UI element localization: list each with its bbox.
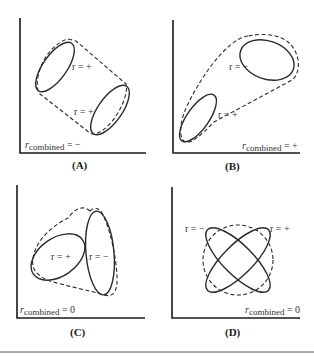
panel-d-combined-envelope <box>203 225 273 295</box>
panel-a: r = + r = + rcombined = − (A) <box>20 18 146 172</box>
panel-d-ellipse-2 <box>197 219 279 301</box>
panel-a-combined-label: rcombined = − <box>25 139 81 152</box>
panel-d-combined-label: rcombined = 0 <box>245 304 300 317</box>
panel-b-caption: (B) <box>225 160 240 173</box>
panel-b-combined-envelope <box>181 34 299 142</box>
panel-d-caption: (D) <box>225 326 241 339</box>
panel-a-r-label-2: r = + <box>74 106 94 117</box>
panel-b-ellipse-2 <box>173 89 223 147</box>
panel-c-r-label-2: r = − <box>89 251 109 262</box>
panel-d-r-label-2: r = + <box>270 223 290 234</box>
panel-b: r = − r = + rcombined = + (B) <box>173 20 300 173</box>
panel-b-combined-label: rcombined = + <box>242 140 298 153</box>
panel-d-r-label-1: r = − <box>185 223 205 234</box>
panel-d-axes <box>172 187 300 318</box>
panel-c: r = + r = − rcombined = 0 (C) <box>17 185 145 339</box>
panel-c-r-label-1: r = + <box>51 251 71 262</box>
panel-b-r-label-1: r = − <box>229 61 249 72</box>
panel-a-axes <box>20 18 146 153</box>
panel-d: r = − r = + rcombined = 0 (D) <box>172 187 300 339</box>
panel-b-ellipse-1 <box>234 33 300 88</box>
panel-c-combined-label: rcombined = 0 <box>20 304 75 317</box>
panel-b-r-label-2: r = + <box>218 109 238 120</box>
panel-d-ellipse-1 <box>197 219 279 301</box>
panel-c-caption: (C) <box>70 326 86 339</box>
panel-a-r-label-1: r = + <box>72 61 92 72</box>
panel-a-caption: (A) <box>72 159 88 172</box>
panel-b-axes <box>173 20 300 153</box>
correlation-diagram: r = + r = + rcombined = − (A) r = − r = … <box>0 0 314 357</box>
